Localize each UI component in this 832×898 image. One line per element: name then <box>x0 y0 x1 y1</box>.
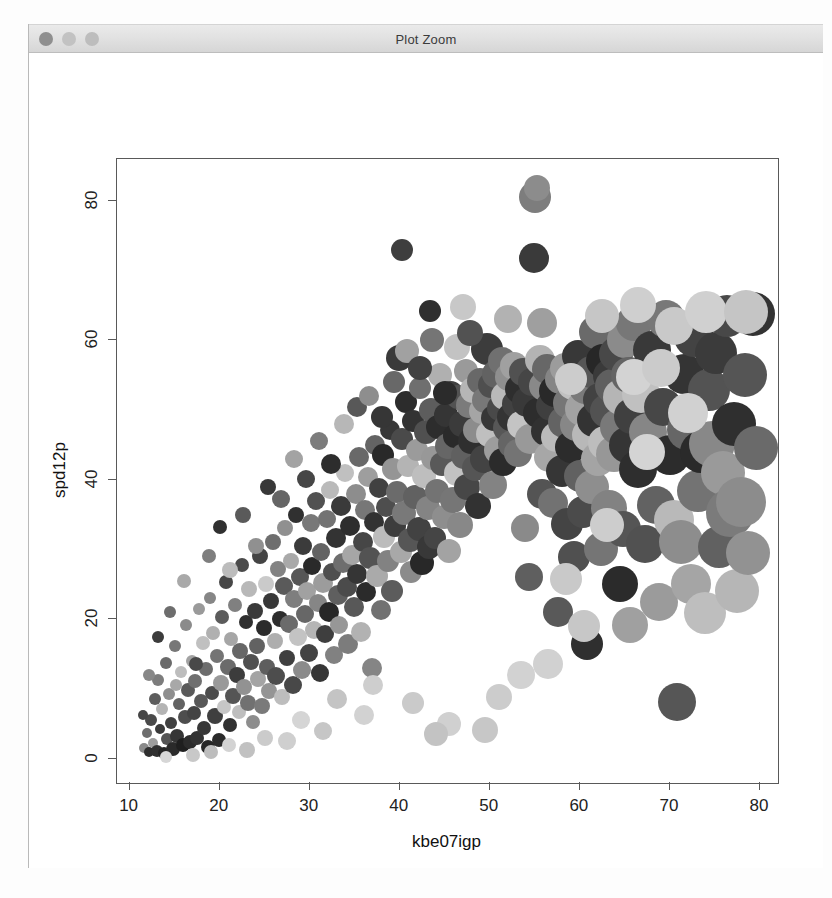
data-point <box>716 477 766 527</box>
y-axis-tick-label: 80 <box>82 190 102 209</box>
data-point <box>381 580 403 602</box>
x-axis-tick-label: 10 <box>119 796 138 816</box>
x-axis-tick <box>759 782 760 790</box>
x-axis-tick-label: 80 <box>750 796 769 816</box>
data-point <box>223 718 237 732</box>
data-point <box>524 175 550 201</box>
data-point <box>267 633 283 649</box>
x-axis-tick-label: 40 <box>389 796 408 816</box>
y-axis-tick <box>108 618 116 619</box>
x-axis-tick <box>489 782 490 790</box>
data-point <box>165 717 177 729</box>
data-point <box>383 371 405 393</box>
data-point <box>507 661 535 689</box>
data-point <box>724 290 768 334</box>
x-axis-tick-label: 50 <box>479 796 498 816</box>
data-point <box>472 717 498 743</box>
data-point <box>279 650 295 666</box>
data-point <box>222 738 236 752</box>
data-point <box>292 711 310 729</box>
data-point <box>533 649 563 679</box>
y-axis-tick-label: 40 <box>82 469 102 488</box>
data-point <box>734 426 778 470</box>
data-point <box>202 549 216 563</box>
data-point <box>447 512 473 538</box>
y-axis-tick <box>108 479 116 480</box>
data-point <box>659 520 703 564</box>
scatter-plot-area <box>116 158 779 784</box>
window-titlebar[interactable]: Plot Zoom <box>29 24 823 53</box>
y-axis-tick <box>108 339 116 340</box>
data-point <box>197 721 211 735</box>
data-point <box>186 748 200 762</box>
data-point <box>257 730 273 746</box>
data-point <box>300 644 318 662</box>
data-point <box>585 299 619 333</box>
data-point <box>620 287 656 323</box>
data-point <box>297 470 315 488</box>
x-axis-title: kbe07igp <box>412 832 481 852</box>
data-point <box>437 539 461 563</box>
y-axis-tick-label: 0 <box>82 753 102 762</box>
data-point <box>602 566 638 602</box>
data-point <box>215 610 229 624</box>
data-point <box>177 574 191 588</box>
data-point <box>371 406 393 428</box>
y-axis-title: spd12p <box>50 442 70 498</box>
data-point <box>310 432 328 450</box>
data-point <box>152 631 164 643</box>
data-point <box>206 626 220 640</box>
x-axis-tick <box>309 782 310 790</box>
data-point <box>193 603 205 615</box>
data-point <box>164 606 176 618</box>
data-point <box>359 386 379 406</box>
data-point <box>311 664 329 682</box>
x-axis-tick-label: 60 <box>569 796 588 816</box>
data-point <box>283 553 299 569</box>
data-point <box>351 622 371 642</box>
data-point <box>685 291 727 333</box>
data-point <box>402 692 424 714</box>
data-point <box>289 628 307 646</box>
data-point <box>568 610 600 642</box>
data-point <box>169 640 181 652</box>
x-axis-tick <box>129 782 130 790</box>
data-point <box>278 732 296 750</box>
data-point <box>213 675 229 691</box>
data-point <box>330 616 348 634</box>
data-point <box>254 698 270 714</box>
data-point <box>240 695 256 711</box>
x-axis-tick-label: 70 <box>659 796 678 816</box>
plot-zoom-window: Plot Zoom spd12p kbe07igp 10203040506070… <box>28 24 823 868</box>
data-point <box>236 679 252 695</box>
data-point <box>285 450 303 468</box>
data-point <box>408 356 432 380</box>
data-point <box>204 592 216 604</box>
data-point <box>424 722 448 746</box>
data-point <box>239 742 255 758</box>
data-point <box>228 598 242 612</box>
data-point <box>235 507 251 523</box>
data-point <box>241 581 257 597</box>
data-point <box>450 294 476 320</box>
data-point <box>180 619 192 631</box>
data-point <box>293 661 311 679</box>
data-point <box>519 243 549 273</box>
data-point <box>175 666 187 678</box>
data-point <box>433 381 457 405</box>
data-point <box>715 569 759 613</box>
data-point <box>173 698 185 710</box>
y-axis-tick <box>108 758 116 759</box>
data-point <box>391 239 413 261</box>
data-point <box>263 593 279 609</box>
window-title: Plot Zoom <box>29 25 823 54</box>
x-axis-tick-label: 30 <box>299 796 318 816</box>
data-point <box>170 679 182 691</box>
x-axis-tick <box>219 782 220 790</box>
x-axis-tick-label: 20 <box>209 796 228 816</box>
data-point <box>420 328 444 352</box>
data-point <box>243 654 259 670</box>
data-point <box>419 300 441 322</box>
data-point <box>629 434 665 470</box>
data-point <box>527 308 557 338</box>
